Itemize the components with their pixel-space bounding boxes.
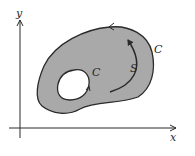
outer-boundary-label: C — [154, 43, 163, 56]
diagram-canvas: y x S C C — [0, 0, 195, 156]
region-label: S — [130, 62, 138, 75]
x-axis-label: x — [170, 131, 177, 144]
greens-theorem-diagram: y x S C C — [0, 0, 195, 156]
inner-boundary-label: C — [92, 66, 101, 79]
y-axis-label: y — [15, 7, 23, 20]
